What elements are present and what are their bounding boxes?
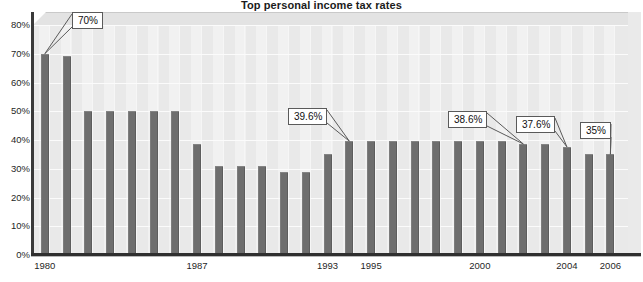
- bar: [519, 144, 527, 255]
- y-axis-tick-label: 60%: [0, 78, 30, 87]
- bar: [106, 111, 114, 255]
- bar: [258, 166, 266, 255]
- horizontal-gridline: [33, 83, 628, 84]
- y-axis-tick-label: 0%: [0, 250, 30, 259]
- horizontal-gridline: [33, 54, 628, 55]
- chart-container: Top personal income tax rates 0%10%20%30…: [0, 0, 643, 282]
- bar: [541, 144, 549, 255]
- plot-frame: [33, 12, 641, 255]
- callout-label: 70%: [72, 12, 103, 29]
- bar: [367, 141, 375, 255]
- plot-area: [33, 25, 628, 255]
- bar: [432, 141, 440, 255]
- bar: [237, 166, 245, 255]
- bar: [563, 147, 571, 255]
- y-axis-tick-label: 30%: [0, 164, 30, 173]
- bar: [606, 154, 614, 255]
- x-axis-shadow: [31, 256, 641, 257]
- bar: [215, 166, 223, 255]
- y-axis-tick-label: 50%: [0, 106, 30, 115]
- y-axis-tick-label: 70%: [0, 49, 30, 58]
- x-axis-tick-label: 1980: [34, 261, 55, 271]
- x-axis-tick-label: 1995: [361, 261, 382, 271]
- horizontal-gridline: [33, 25, 628, 26]
- y-axis-tick-labels: 0%10%20%30%40%50%60%70%80%: [0, 0, 30, 282]
- callout-label: 35%: [580, 122, 611, 139]
- bar: [324, 154, 332, 255]
- y-axis-tick-label: 10%: [0, 221, 30, 230]
- chart-title: Top personal income tax rates: [0, 0, 643, 12]
- x-axis-tick-label: 2004: [556, 261, 577, 271]
- bar: [128, 111, 136, 255]
- bar: [84, 111, 92, 255]
- y-axis-line: [31, 12, 34, 256]
- bar: [498, 141, 506, 255]
- x-axis-tick-label: 2006: [600, 261, 621, 271]
- bar: [389, 141, 397, 255]
- plot-top-bevel: [33, 12, 641, 25]
- bar: [476, 141, 484, 255]
- x-axis-tick-label: 1987: [186, 261, 207, 271]
- callout-label: 39.6%: [288, 108, 327, 125]
- x-axis-tick-label: 1993: [317, 261, 338, 271]
- bar: [280, 172, 288, 255]
- bar: [171, 111, 179, 255]
- y-axis-tick-label: 20%: [0, 193, 30, 202]
- horizontal-gridline: [33, 140, 628, 141]
- y-axis-tick-label: 40%: [0, 135, 30, 144]
- bar: [193, 144, 201, 255]
- bar: [585, 154, 593, 255]
- y-axis-tick-label: 80%: [0, 20, 30, 29]
- bar: [150, 111, 158, 255]
- bar: [345, 141, 353, 255]
- bar: [411, 141, 419, 255]
- bar: [63, 56, 71, 255]
- bar: [302, 172, 310, 255]
- callout-label: 37.6%: [516, 116, 555, 133]
- plot-bevel-corner-left: [33, 12, 46, 25]
- callout-label: 38.6%: [448, 111, 487, 128]
- x-axis-tick-label: 2000: [469, 261, 490, 271]
- horizontal-gridline: [33, 111, 628, 112]
- plot-right-bevel: [628, 12, 641, 255]
- bar: [454, 141, 462, 255]
- bar: [41, 54, 49, 255]
